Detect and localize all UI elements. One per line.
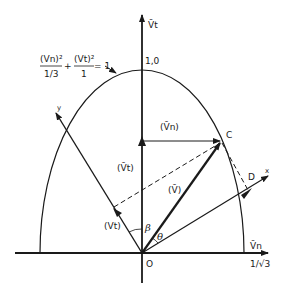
eq-term1-den: 1/3 [44, 69, 58, 79]
point-c-label: C [226, 130, 232, 140]
horizontal-axis-label: V̄n [250, 240, 262, 251]
theta-label: θ [157, 231, 163, 242]
dashed-projection-x [222, 143, 248, 190]
eq-term1-num: (Vn)² [40, 54, 63, 64]
ellipse-equation: (Vn)² 1/3 + (Vt)² 1 = 1 [40, 54, 116, 79]
vn-bar-label: (V̄n) [160, 121, 179, 132]
eq-plus: + [64, 61, 72, 71]
rotated-y-label: y [57, 104, 61, 112]
vt-label: (Vt) [104, 221, 121, 231]
beta-arc [129, 229, 142, 232]
eq-term2-num: (Vt)² [74, 54, 95, 64]
v-bar-vector [142, 143, 220, 253]
eq-rhs: = 1 [94, 61, 110, 71]
eq-term2-den: 1 [81, 69, 87, 79]
vector-diagram: (Vn)² 1/3 + (Vt)² 1 = 1 V̄t 1,0 V̄n 1/√3… [0, 0, 284, 290]
vt-arrowhead [113, 208, 122, 217]
vertical-intercept-label: 1,0 [145, 56, 160, 66]
v-bar-label: (V̄) [168, 184, 181, 195]
dashed-projection-y [114, 143, 220, 207]
origin-label: O [146, 259, 153, 269]
beta-label: β [144, 222, 151, 233]
vt-bar-label: (V̄t) [117, 162, 134, 173]
rotated-x-label: x [265, 167, 269, 175]
horizontal-intercept-label: 1/√3 [250, 259, 270, 269]
vertical-axis-label: V̄t [148, 19, 158, 30]
point-d-label: D [248, 172, 255, 182]
